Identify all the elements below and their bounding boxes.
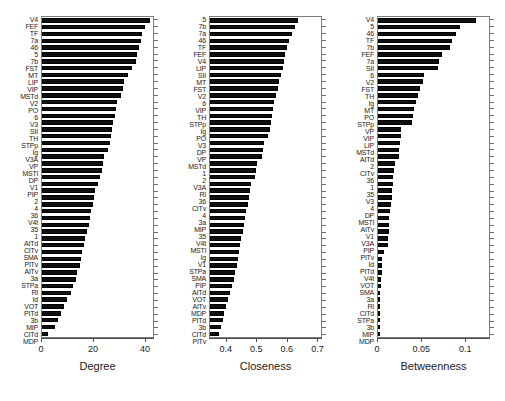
- bar-row: [378, 160, 489, 167]
- bar: [210, 250, 239, 254]
- category-label: MT: [338, 107, 376, 114]
- bar-row: [42, 167, 153, 174]
- axis-tick: [154, 228, 160, 235]
- axis-tick: [322, 16, 328, 23]
- bar-row: [42, 290, 153, 297]
- bar-row: [42, 187, 153, 194]
- category-label: V4: [170, 58, 208, 65]
- bar-row: [210, 221, 321, 228]
- bar-row: [42, 37, 153, 44]
- bar-row: [378, 78, 489, 85]
- axis-tick: [490, 105, 496, 112]
- category-label: TF: [2, 30, 40, 37]
- axis-tick: [154, 249, 160, 256]
- axis-tick: [322, 84, 328, 91]
- bar: [210, 161, 257, 165]
- bar: [42, 263, 80, 267]
- category-labels-degree: V4FEFTF7a4657bFSTMTLIPVIPMSTdV2PO6V3SIIT…: [2, 16, 40, 338]
- axis-tick: [154, 208, 160, 215]
- bars-closeness: [210, 17, 321, 337]
- category-label: V3A: [2, 156, 40, 163]
- bar-row: [378, 310, 489, 317]
- axis-tick: [154, 153, 160, 160]
- axis-tick: [322, 173, 328, 180]
- axis-tick: [154, 180, 160, 187]
- axis-tick: [490, 16, 496, 23]
- category-label: PITv: [2, 261, 40, 268]
- bar-row: [210, 262, 321, 269]
- axis-tick: [322, 283, 328, 290]
- bar-row: [42, 140, 153, 147]
- bar: [378, 257, 382, 261]
- axis-tick: [490, 208, 496, 215]
- axis-tick: [322, 23, 328, 30]
- bar-row: [210, 324, 321, 331]
- axis-tick: [490, 249, 496, 256]
- axis-tick: [490, 98, 496, 105]
- category-label: 2: [170, 177, 208, 184]
- bar: [378, 120, 412, 124]
- bar-row: [378, 58, 489, 65]
- category-label: 6: [170, 100, 208, 107]
- axis-tick: [322, 57, 328, 64]
- bar-row: [42, 174, 153, 181]
- axis-tick: [322, 228, 328, 235]
- axis-tick: [322, 208, 328, 215]
- bar-row: [210, 317, 321, 324]
- bar-row: [378, 324, 489, 331]
- bar: [42, 114, 115, 118]
- bar-row: [42, 85, 153, 92]
- bar: [210, 223, 244, 227]
- bar: [210, 79, 279, 83]
- category-label: Ig: [2, 149, 40, 156]
- axis-tick: [322, 276, 328, 283]
- bar: [378, 291, 380, 295]
- bar: [378, 182, 393, 186]
- bar-row: [378, 112, 489, 119]
- category-label: MSTd: [338, 149, 376, 156]
- bar-row: [210, 276, 321, 283]
- category-label: STPa: [338, 317, 376, 324]
- axis-tick: [322, 201, 328, 208]
- axis-tick: [322, 112, 328, 119]
- axis-tick: [154, 317, 160, 324]
- category-label: MIP: [338, 331, 376, 338]
- bar-row: [42, 269, 153, 276]
- bar: [42, 250, 82, 254]
- axis-tick: [490, 173, 496, 180]
- axis-tick: [154, 221, 160, 228]
- category-label: CITv: [2, 247, 40, 254]
- bar: [210, 284, 232, 288]
- x-axis-tick: [421, 338, 422, 342]
- axis-tick: [490, 297, 496, 304]
- axis-tick: [154, 290, 160, 297]
- axis-tick: [490, 235, 496, 242]
- bar: [210, 291, 230, 295]
- category-label: DP: [338, 212, 376, 219]
- bar-row: [378, 146, 489, 153]
- category-label: V4t: [170, 240, 208, 247]
- x-axis-tick-label: 0: [374, 344, 379, 354]
- bar-row: [42, 92, 153, 99]
- category-label: 36: [338, 177, 376, 184]
- bar-row: [42, 208, 153, 215]
- bar: [42, 284, 73, 288]
- bar: [378, 86, 420, 90]
- bar-row: [210, 167, 321, 174]
- category-label: 7b: [338, 44, 376, 51]
- category-label: 3a: [338, 296, 376, 303]
- bar: [42, 291, 71, 295]
- bar: [378, 32, 456, 36]
- bar: [378, 100, 416, 104]
- bar: [42, 141, 110, 145]
- category-label: V4t: [338, 275, 376, 282]
- category-label: TF: [170, 44, 208, 51]
- bar: [42, 332, 48, 336]
- axis-tick: [490, 71, 496, 78]
- x-axis-tick-label: 40: [140, 344, 150, 354]
- bar: [378, 141, 400, 145]
- axis-tick: [490, 194, 496, 201]
- bar-row: [378, 99, 489, 106]
- bar-row: [42, 17, 153, 24]
- category-label: RI: [170, 191, 208, 198]
